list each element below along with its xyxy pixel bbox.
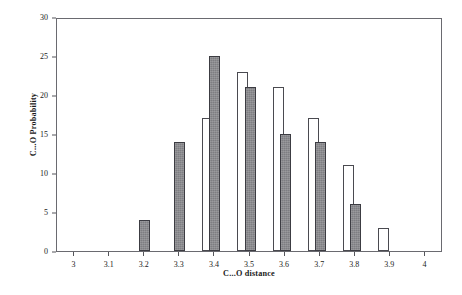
y-axis-tick-label: 20 <box>26 92 48 100</box>
x-axis-tick-mark <box>178 252 179 256</box>
y-axis-tick-mark <box>52 174 56 175</box>
x-axis-tick-mark <box>424 252 425 256</box>
bar-filled-3.7 <box>315 142 326 251</box>
y-axis-tick-label: 15 <box>26 131 48 139</box>
x-axis-tick-label: 3.8 <box>334 260 374 269</box>
x-axis-tick-mark <box>284 252 285 256</box>
bar-open-3.88 <box>378 228 389 251</box>
x-axis-tick-label: 3.1 <box>89 260 129 269</box>
bars-layer <box>57 19 441 251</box>
y-axis-tick-mark <box>52 252 56 253</box>
x-axis-tick-label: 3.9 <box>369 260 409 269</box>
y-axis: 051015202530 <box>0 0 56 295</box>
x-axis-tick-mark <box>213 252 214 256</box>
y-axis-tick-label: 30 <box>26 14 48 22</box>
x-axis-tick-mark <box>73 252 74 256</box>
chart-container: C...O Probability 051015202530 33.13.23.… <box>0 0 462 295</box>
y-axis-tick-mark <box>52 96 56 97</box>
bar-filled-3.2 <box>139 220 150 251</box>
x-axis-tick-mark <box>319 252 320 256</box>
x-axis-tick-label: 3 <box>54 260 94 269</box>
x-axis-tick-mark <box>389 252 390 256</box>
y-axis-tick-label: 10 <box>26 170 48 178</box>
x-axis-tick-mark <box>249 252 250 256</box>
x-axis-tick-label: 3.3 <box>159 260 199 269</box>
bar-filled-3.5 <box>245 87 256 251</box>
x-axis-tick-label: 3.2 <box>124 260 164 269</box>
x-axis-tick-label: 3.4 <box>194 260 234 269</box>
bar-filled-3.8 <box>350 204 361 251</box>
x-axis-tick-mark <box>108 252 109 256</box>
x-axis-tick-mark <box>143 252 144 256</box>
bar-filled-3.6 <box>280 134 291 251</box>
x-axis-tick-label: 4 <box>404 260 444 269</box>
y-axis-tick-label: 0 <box>26 248 48 256</box>
x-axis-tick-label: 3.6 <box>264 260 304 269</box>
plot-area <box>56 18 442 252</box>
y-axis-tick-mark <box>52 18 56 19</box>
bar-filled-3.3 <box>174 142 185 251</box>
y-axis-tick-label: 25 <box>26 53 48 61</box>
x-axis-tick-label: 3.7 <box>299 260 339 269</box>
bar-filled-3.4 <box>209 56 220 251</box>
y-axis-tick-label: 5 <box>26 209 48 217</box>
y-axis-tick-mark <box>52 135 56 136</box>
x-axis-title: C...O distance <box>56 269 442 278</box>
y-axis-tick-mark <box>52 213 56 214</box>
x-axis-tick-mark <box>354 252 355 256</box>
x-axis-tick-label: 3.5 <box>229 260 269 269</box>
y-axis-tick-mark <box>52 57 56 58</box>
